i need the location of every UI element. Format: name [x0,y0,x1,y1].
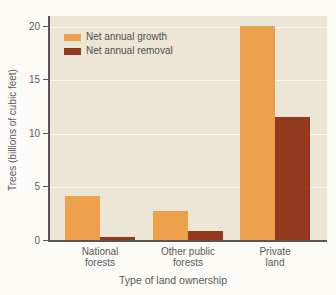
y-tick-mark-20 [43,26,48,27]
gridline-15 [49,80,327,81]
y-axis-title: Trees (billions of cubic feet) [7,20,21,240]
x-axis-title: Type of land ownership [48,274,298,286]
legend-label: Net annual growth [86,32,167,42]
legend-entry-1: Net annual growth [64,32,173,42]
y-tick-mark-10 [43,133,48,134]
bar-growth-3 [240,26,275,241]
figure: Net annual growthNet annual removal 0510… [0,0,336,295]
legend-swatch-icon [64,34,81,41]
legend-entry-2: Net annual removal [64,46,173,56]
bar-removal-3 [275,117,310,241]
x-category-label-3: Privateland [235,246,315,268]
gridline-20 [49,27,327,28]
y-axis-line [48,16,50,241]
y-tick-mark-0 [43,240,48,241]
y-tick-mark-15 [43,79,48,80]
x-category-label-1: Nationalforests [60,246,140,268]
x-category-label-2: Other publicforests [148,246,228,268]
legend-label: Net annual removal [86,46,173,56]
bar-growth-2 [153,211,188,241]
legend-swatch-icon [64,48,81,55]
bar-growth-1 [65,196,100,241]
y-tick-mark-5 [43,186,48,187]
legend: Net annual growthNet annual removal [64,32,173,60]
x-axis-line [48,240,327,242]
plot-area: Net annual growthNet annual removal [49,16,327,241]
